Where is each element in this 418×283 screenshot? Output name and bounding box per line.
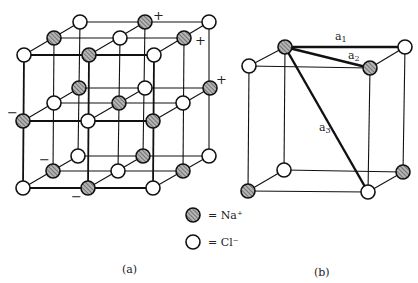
na-ion: [176, 164, 190, 178]
na-ion: [278, 40, 292, 54]
cl-legend-swatch-icon: [186, 235, 200, 249]
na-ion: [16, 114, 30, 128]
cl-ion: [398, 40, 412, 54]
minus-label: −: [7, 105, 18, 120]
minus-label: −: [71, 189, 82, 204]
na-ion: [47, 31, 61, 45]
cl-ion: [147, 48, 161, 62]
cl-ion: [113, 31, 127, 45]
na-ion: [146, 114, 160, 128]
cl-ion: [111, 164, 125, 178]
nacl-lattice-a: + + + − − −: [7, 8, 227, 204]
cl-legend-label: = Cl⁻: [208, 236, 239, 249]
plus-label: +: [195, 33, 206, 48]
na-ion: [138, 15, 152, 29]
legend: = Na⁺ = Cl⁻: [186, 208, 243, 249]
label-a2: a2: [348, 49, 360, 63]
cl-ion: [202, 149, 216, 163]
cl-ion: [16, 181, 30, 195]
cl-ion: [47, 96, 61, 110]
na-ion: [396, 165, 410, 179]
cl-ion: [361, 185, 375, 199]
caption-b: (b): [314, 266, 330, 279]
cl-ion: [277, 163, 291, 177]
na-ion: [203, 81, 217, 95]
na-legend-label: = Na⁺: [208, 209, 243, 222]
plus-label: +: [153, 8, 164, 23]
cl-ion: [242, 59, 256, 73]
cl-ion: [81, 114, 95, 128]
minus-label: −: [39, 152, 50, 167]
cl-ion: [71, 149, 85, 163]
label-a1: a1: [335, 30, 347, 44]
nacl-crystal-figure: + + + − − − = Na⁺ = Cl⁻ (a): [0, 0, 418, 283]
unit-cell-b: a1 a2 a3: [241, 30, 412, 199]
na-ion: [136, 149, 150, 163]
na-ion: [72, 81, 86, 95]
na-ion: [81, 181, 95, 195]
na-ion: [363, 61, 377, 75]
na-ion: [82, 48, 96, 62]
na-ion: [241, 184, 255, 198]
plus-label: +: [216, 72, 227, 87]
cl-ion: [202, 15, 216, 29]
caption-a: (a): [122, 263, 137, 276]
na-ion: [177, 31, 191, 45]
cl-ion: [176, 96, 190, 110]
cl-ion: [73, 15, 87, 29]
cl-ion: [146, 181, 160, 195]
na-legend-swatch-icon: [186, 208, 200, 222]
cl-ion: [138, 81, 152, 95]
na-ion: [112, 96, 126, 110]
cl-ion: [17, 48, 31, 62]
